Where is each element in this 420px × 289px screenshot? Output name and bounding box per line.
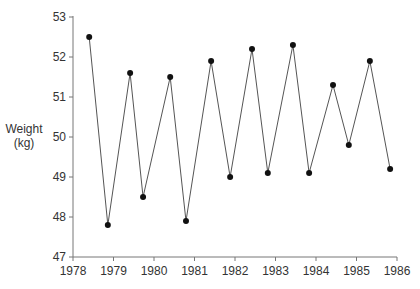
data-point-marker	[367, 58, 373, 64]
data-point-marker	[249, 46, 255, 52]
axes: 1978197919801981198219831984198519864748…	[53, 10, 411, 278]
y-tick-label: 51	[53, 90, 67, 104]
y-tick-label: 48	[53, 210, 67, 224]
data-point-marker	[208, 58, 214, 64]
y-tick-label: 50	[53, 130, 67, 144]
data-point-marker	[167, 74, 173, 80]
data-point-marker	[127, 70, 133, 76]
series-line	[89, 37, 390, 225]
x-tick-label: 1983	[262, 264, 289, 278]
x-tick-label: 1980	[141, 264, 168, 278]
data-point-marker	[387, 166, 393, 172]
data-series	[86, 34, 393, 228]
x-tick-label: 1982	[222, 264, 249, 278]
y-tick-label: 47	[53, 250, 67, 264]
data-point-marker	[346, 142, 352, 148]
line-chart: 1978197919801981198219831984198519864748…	[0, 0, 420, 289]
x-tick-label: 1984	[303, 264, 330, 278]
x-tick-label: 1985	[343, 264, 370, 278]
data-point-marker	[86, 34, 92, 40]
y-tick-label: 52	[53, 50, 67, 64]
y-tick-label: 49	[53, 170, 67, 184]
x-tick-label: 1981	[181, 264, 208, 278]
y-tick-label: 53	[53, 10, 67, 24]
data-point-marker	[265, 170, 271, 176]
data-point-marker	[105, 222, 111, 228]
data-point-marker	[330, 82, 336, 88]
data-point-marker	[183, 218, 189, 224]
x-tick-label: 1979	[100, 264, 127, 278]
x-tick-label: 1986	[384, 264, 411, 278]
data-point-marker	[290, 42, 296, 48]
data-point-marker	[227, 174, 233, 180]
data-point-marker	[306, 170, 312, 176]
data-point-marker	[140, 194, 146, 200]
x-tick-label: 1978	[60, 264, 87, 278]
